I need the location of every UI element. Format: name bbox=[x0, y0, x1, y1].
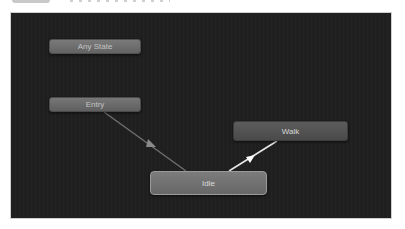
state-node-entry[interactable]: Entry bbox=[49, 97, 141, 112]
state-label: Idle bbox=[202, 179, 215, 188]
state-node-any-state[interactable]: Any State bbox=[49, 39, 141, 54]
clipped-text bbox=[70, 0, 170, 2]
arrowhead-icon bbox=[146, 139, 156, 147]
arrowhead-icon bbox=[246, 155, 255, 163]
state-machine-canvas[interactable]: Any State Entry Walk Idle bbox=[10, 12, 392, 219]
state-node-idle[interactable]: Idle bbox=[150, 171, 267, 195]
clipped-tab bbox=[12, 0, 50, 3]
transition-entry-to-idle[interactable] bbox=[104, 112, 186, 171]
transition-idle-to-walk[interactable] bbox=[229, 141, 277, 171]
state-label: Entry bbox=[86, 100, 105, 109]
clipped-toolbar-text bbox=[12, 0, 172, 4]
state-label: Walk bbox=[282, 127, 299, 136]
state-label: Any State bbox=[78, 42, 113, 51]
state-node-walk[interactable]: Walk bbox=[233, 121, 348, 141]
